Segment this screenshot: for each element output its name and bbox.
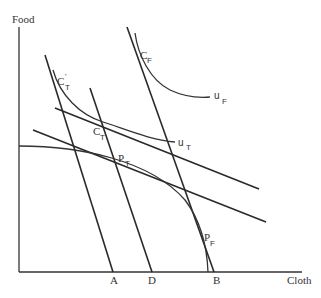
svg-text:C: C <box>57 75 64 87</box>
svg-text:F: F <box>210 239 215 248</box>
label-cf: C F <box>140 49 152 65</box>
label-uf: u F <box>214 90 227 106</box>
label-ct-prime: C ' T <box>57 72 70 92</box>
svg-text:T: T <box>65 83 70 92</box>
label-ut: u T <box>178 137 191 152</box>
label-b: B <box>213 274 220 286</box>
trade-diagram: Food Cloth C ' T C T C F P T P F u F u T <box>0 0 321 298</box>
x-axis-label: Cloth <box>287 274 312 286</box>
svg-text:u: u <box>214 90 220 101</box>
svg-text:': ' <box>65 72 67 81</box>
svg-text:F: F <box>222 97 227 106</box>
svg-text:T: T <box>100 133 105 142</box>
label-a: A <box>110 274 118 286</box>
label-pf: P F <box>204 231 215 248</box>
indifference-curve-uf <box>135 33 210 97</box>
lower-flat-line <box>33 130 266 222</box>
y-axis-label: Food <box>12 13 35 25</box>
svg-text:T: T <box>125 159 130 168</box>
svg-text:F: F <box>147 56 152 65</box>
line-d <box>90 88 152 272</box>
line-a <box>45 55 113 272</box>
svg-text:P: P <box>118 152 124 164</box>
production-possibility-frontier <box>19 146 208 272</box>
svg-text:T: T <box>186 143 191 152</box>
label-d: D <box>148 274 156 286</box>
svg-text:u: u <box>178 137 184 148</box>
